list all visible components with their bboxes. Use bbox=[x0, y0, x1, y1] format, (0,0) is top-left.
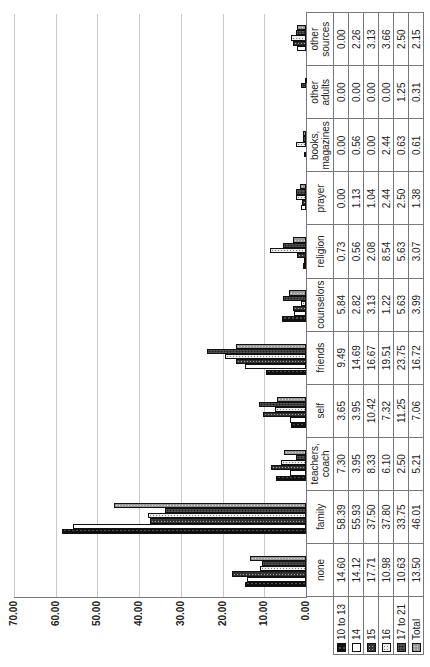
bar bbox=[297, 253, 306, 258]
table-cell: 2.82 bbox=[349, 278, 364, 331]
bar bbox=[236, 359, 306, 364]
table-cell: 0.00 bbox=[379, 66, 394, 119]
table-row: 1610.9837.806.107.3219.511.228.542.442.4… bbox=[379, 13, 394, 655]
table-cell: 0.00 bbox=[364, 66, 379, 119]
bar bbox=[303, 131, 306, 136]
bar bbox=[297, 46, 306, 51]
bar bbox=[276, 476, 306, 481]
bar bbox=[284, 450, 306, 455]
table-cell: 0.56 bbox=[349, 225, 364, 278]
y-tick-label: 70.00 bbox=[8, 601, 19, 645]
bar bbox=[290, 471, 306, 476]
legend-swatch-icon bbox=[382, 643, 391, 652]
bar bbox=[301, 301, 306, 306]
bar bbox=[305, 78, 307, 83]
table-row: 1517.7137.508.3310.4216.673.132.081.040.… bbox=[364, 13, 379, 655]
bar bbox=[260, 566, 306, 571]
table-cell: 16.67 bbox=[364, 331, 379, 384]
table-cell: 14.12 bbox=[349, 543, 364, 596]
table-cell: 0.63 bbox=[394, 119, 409, 172]
bar bbox=[259, 402, 306, 407]
gridline bbox=[14, 14, 15, 598]
table-cell: 58.39 bbox=[334, 490, 349, 543]
category-label: friends bbox=[307, 331, 334, 384]
bar bbox=[283, 243, 306, 248]
table-cell: 0.00 bbox=[334, 66, 349, 119]
bar bbox=[296, 195, 306, 200]
y-tick-label: 30.00 bbox=[175, 601, 186, 645]
bar bbox=[291, 423, 306, 428]
bar bbox=[62, 529, 306, 534]
table-cell: 19.51 bbox=[379, 331, 394, 384]
bar bbox=[247, 577, 306, 582]
legend-swatch-icon bbox=[397, 643, 406, 652]
bar bbox=[275, 407, 306, 412]
bar bbox=[263, 412, 306, 417]
category-label: self bbox=[307, 384, 334, 437]
legend-label: 14 bbox=[351, 629, 362, 640]
table-row: Total13.5046.015.217.0616.723.993.071.38… bbox=[409, 13, 424, 655]
legend-label: Total bbox=[411, 619, 422, 640]
bar bbox=[165, 508, 306, 513]
bar bbox=[262, 561, 306, 566]
legend-label: 16 bbox=[381, 629, 392, 640]
bar bbox=[303, 136, 306, 141]
legend-label: 15 bbox=[366, 629, 377, 640]
bar bbox=[301, 83, 306, 88]
chart: nonefamilyteachers, coachselffriendscoun… bbox=[0, 0, 430, 667]
table-cell: 3.95 bbox=[349, 437, 364, 490]
table-cell: 1.38 bbox=[409, 172, 424, 225]
table-cell: 1.22 bbox=[379, 278, 394, 331]
bar bbox=[289, 290, 306, 295]
table-cell: 3.65 bbox=[334, 384, 349, 437]
table-cell: 6.10 bbox=[379, 437, 394, 490]
table-cell: 37.50 bbox=[364, 490, 379, 543]
table-cell: 5.63 bbox=[394, 225, 409, 278]
bar bbox=[296, 30, 306, 35]
table-cell: 1.25 bbox=[394, 66, 409, 119]
table-cell: 55.93 bbox=[349, 490, 364, 543]
table-cell: 10.63 bbox=[394, 543, 409, 596]
table-cell: 8.33 bbox=[364, 437, 379, 490]
bar bbox=[303, 263, 306, 268]
table-cell: 16.72 bbox=[409, 331, 424, 384]
table-cell: 14.60 bbox=[334, 543, 349, 596]
table-cell: 0.31 bbox=[409, 66, 424, 119]
bar bbox=[150, 518, 306, 523]
bar bbox=[207, 349, 306, 354]
table-cell: 5.84 bbox=[334, 278, 349, 331]
bar bbox=[304, 258, 306, 263]
category-label: family bbox=[307, 490, 334, 543]
gridline bbox=[306, 14, 307, 598]
bar bbox=[266, 370, 306, 375]
category-label: religion bbox=[307, 225, 334, 278]
bar bbox=[297, 25, 306, 30]
gridline bbox=[139, 14, 140, 598]
table-cell: 10.98 bbox=[379, 543, 394, 596]
bar bbox=[236, 344, 306, 349]
legend-swatch-icon bbox=[352, 643, 361, 652]
table-cell: 11.25 bbox=[394, 384, 409, 437]
category-label: counselors bbox=[307, 278, 334, 331]
bar bbox=[293, 306, 306, 311]
bar bbox=[114, 503, 306, 508]
table-cell: 2.08 bbox=[364, 225, 379, 278]
bar bbox=[302, 200, 306, 205]
legend-swatch-icon bbox=[412, 643, 421, 652]
table-cell: 23.75 bbox=[394, 331, 409, 384]
table-cell: 17.71 bbox=[364, 543, 379, 596]
table-cell: 2.26 bbox=[349, 13, 364, 66]
bar bbox=[245, 582, 306, 587]
y-tick-label: 40.00 bbox=[133, 601, 144, 645]
y-tick-label: 60.00 bbox=[50, 601, 61, 645]
table-cell: 0.73 bbox=[334, 225, 349, 278]
bar bbox=[300, 184, 306, 189]
bar bbox=[270, 248, 306, 253]
bar bbox=[283, 296, 306, 301]
table-cell: 3.95 bbox=[349, 384, 364, 437]
gridline bbox=[97, 14, 98, 598]
bar bbox=[225, 354, 306, 359]
legend-entry: 17 to 21 bbox=[394, 597, 409, 655]
table-cell: 2.50 bbox=[394, 437, 409, 490]
table-cell: 0.00 bbox=[334, 13, 349, 66]
